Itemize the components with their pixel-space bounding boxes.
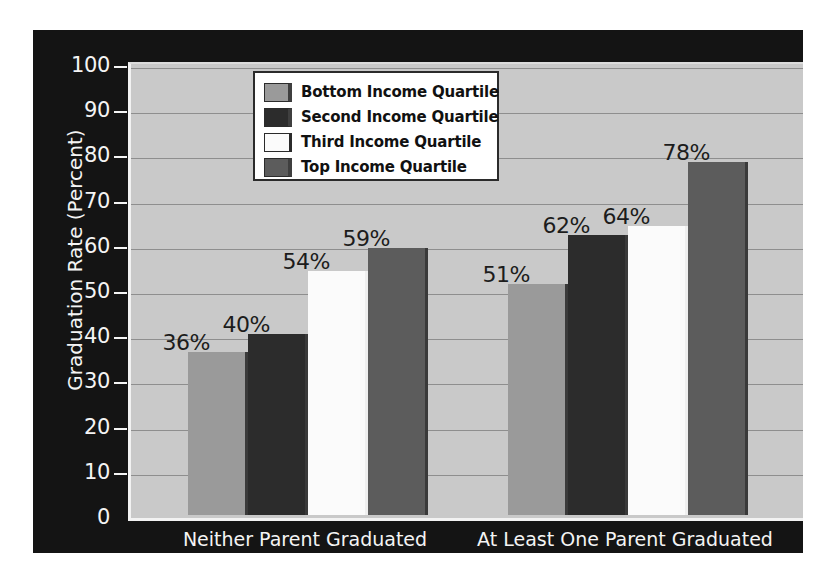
bar [688,162,748,515]
legend-label: Bottom Income Quartile [301,83,499,101]
y-axis-tick-mark [114,156,127,158]
y-axis-tick-label: 70 [50,191,110,212]
bar [248,334,308,515]
legend-swatch [264,108,292,127]
bar-value-label: 40% [210,312,270,337]
y-axis-tick-label: 10 [50,462,110,483]
y-axis-tick-mark [114,202,127,204]
bar [628,226,688,515]
y-axis-tick-label: 30 [50,371,110,392]
x-axis-group-label: Neither Parent Graduated from College [135,527,475,553]
bar [188,352,248,515]
y-axis-tick-label: 90 [50,100,110,121]
legend-label: Third Income Quartile [301,133,481,151]
bar-value-label: 59% [330,226,390,251]
y-axis-tick-label: 0 [50,507,110,528]
gridline [131,68,803,69]
bar-value-label: 54% [270,249,330,274]
legend-swatch [264,83,292,102]
plot-area: 36%40%54%59%51%62%64%78% Bottom Income Q… [128,62,803,521]
y-axis-tick-label: 20 [50,417,110,438]
y-axis-tick-label: 80 [50,145,110,166]
y-axis-tick-label: 60 [50,236,110,257]
legend-swatch [264,133,292,152]
y-axis-tick-mark [114,111,127,113]
legend-item: Bottom Income Quartile [264,80,488,104]
y-axis-tick-mark [114,382,127,384]
y-axis-tick-mark [114,428,127,430]
bar-value-label: 36% [150,330,210,355]
x-axis-group-label: At Least One Parent Graduated from Colle… [455,527,795,553]
y-axis-tick-label: 50 [50,281,110,302]
bar-value-label: 64% [590,204,650,229]
legend-item: Third Income Quartile [264,130,488,154]
y-axis-tick-mark [114,66,127,68]
bar-value-label: 62% [530,213,590,238]
bar-value-label: 78% [650,140,710,165]
bar [508,284,568,515]
bar-value-label: 51% [470,262,530,287]
y-axis-tick-label: 100 [50,55,110,76]
y-axis-tick-label: 40 [50,326,110,347]
legend-item: Second Income Quartile [264,105,488,129]
legend-label: Top Income Quartile [301,158,467,176]
legend: Bottom Income QuartileSecond Income Quar… [253,71,499,181]
legend-swatch [264,158,292,177]
y-axis-tick-mark [114,473,127,475]
bar [368,248,428,515]
y-axis-tick-mark [114,247,127,249]
legend-label: Second Income Quartile [301,108,498,126]
legend-item: Top Income Quartile [264,155,488,179]
chart-figure: Graduation Rate (Percent) 01020304050607… [33,30,803,553]
bar [308,271,368,515]
y-axis-tick-mark [114,292,127,294]
y-axis-tick-mark [114,337,127,339]
bar [568,235,628,515]
